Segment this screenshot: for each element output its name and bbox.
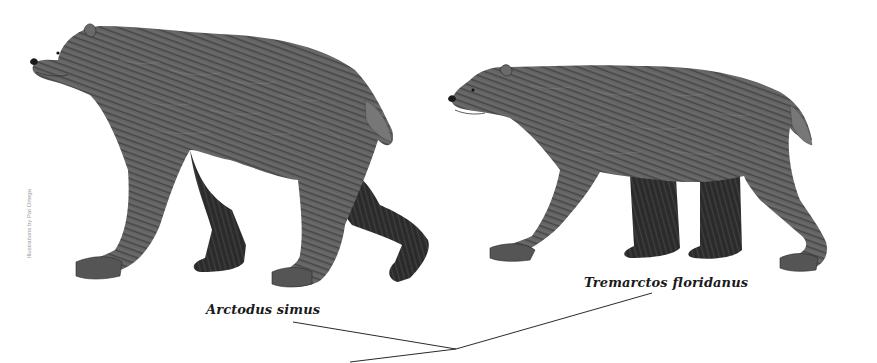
leader-lines bbox=[293, 293, 652, 362]
tremarctos-front-paw bbox=[490, 244, 535, 262]
tremarctos-far-foreleg bbox=[624, 175, 680, 258]
tremarctos-floridanus-illustration bbox=[448, 65, 827, 272]
leader-line-arctodus bbox=[293, 322, 456, 349]
arctodus-eye bbox=[56, 51, 59, 54]
tremarctos-tail bbox=[790, 105, 812, 145]
arctodus-front-paw bbox=[76, 257, 122, 279]
tremarctos-eye bbox=[472, 89, 475, 92]
arctodus-simus-illustration bbox=[30, 20, 430, 290]
illustration-credit: Illustrations by Pat Ortega bbox=[26, 189, 32, 258]
arctodus-hind-paw bbox=[272, 268, 312, 288]
tremarctos-far-hindleg bbox=[688, 176, 742, 259]
bear-comparison-figure: Illustrations by Pat Ortega Arctodus sim… bbox=[0, 0, 877, 363]
label-tremarctos-floridanus: Tremarctos floridanus bbox=[584, 275, 748, 290]
label-arctodus-simus: Arctodus simus bbox=[206, 302, 320, 317]
leader-line-tremarctos bbox=[456, 293, 652, 349]
illustration-canvas bbox=[0, 0, 877, 363]
tremarctos-hind-paw bbox=[780, 254, 818, 272]
leader-line-bottom bbox=[350, 349, 456, 362]
